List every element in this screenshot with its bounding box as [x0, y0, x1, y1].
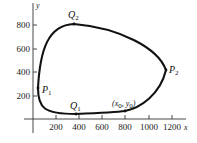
x-tick-label-400: 400	[72, 122, 86, 132]
label-Q2: Q2	[68, 9, 79, 22]
point-Q2	[73, 23, 76, 26]
y-tick-label-600: 600	[17, 44, 31, 54]
x-tick-label-800: 800	[118, 122, 132, 132]
label-P2: P2	[168, 64, 179, 77]
y-tick-label-200: 200	[17, 91, 31, 101]
label-Q1: Q1	[70, 100, 81, 113]
trajectory-curve	[38, 24, 166, 114]
x-axis-label: x	[183, 123, 188, 132]
y-tick-label-800: 800	[17, 20, 31, 30]
x-tick-label-1200: 1200	[163, 122, 182, 132]
point-x0y0	[124, 110, 127, 113]
x-ticks	[56, 115, 172, 119]
x-tick-label-1000: 1000	[140, 122, 159, 132]
label-P1: P1	[41, 84, 52, 97]
label-x0y0: (x0, y0)	[112, 99, 136, 110]
y-axis-label: y	[35, 1, 40, 10]
point-P1	[37, 87, 40, 90]
y-ticks	[33, 25, 37, 96]
point-Q1	[75, 113, 78, 116]
x-tick-label-600: 600	[95, 122, 109, 132]
y-tick-label-400: 400	[17, 67, 31, 77]
x-tick-label-200: 200	[49, 122, 63, 132]
point-P2	[165, 69, 168, 72]
phase-plane-chart: 800 600 400 200 200 400 600 800 1000 120…	[0, 0, 197, 143]
